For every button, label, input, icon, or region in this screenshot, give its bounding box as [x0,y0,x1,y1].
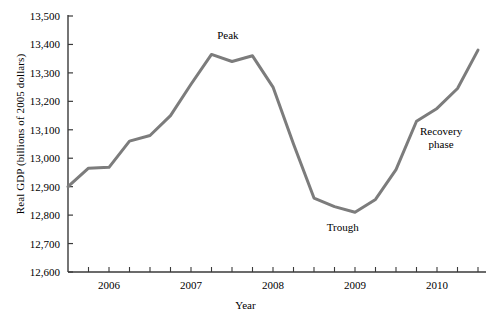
y-axis-ticks: 12,60012,70012,80012,90013,00013,10013,2… [30,10,73,278]
chart-axes [68,15,486,272]
annotation-peak: Peak [217,29,239,41]
svg-text:2007: 2007 [180,279,203,291]
gdp-line-chart: 12,60012,70012,80012,90013,00013,10013,2… [0,0,491,320]
annotation-phase: phase [429,138,454,150]
svg-text:2008: 2008 [262,279,285,291]
svg-text:13,300: 13,300 [30,67,61,79]
annotation-trough: Trough [327,221,359,233]
annotation-recovery: Recovery [420,125,463,137]
svg-text:2010: 2010 [426,279,449,291]
svg-text:2009: 2009 [344,279,367,291]
x-axis-ticks: 20062007200820092010 [89,267,479,291]
svg-text:13,500: 13,500 [30,10,61,22]
svg-text:13,000: 13,000 [30,152,61,164]
y-axis-title: Real GDP (billions of 2005 dollars) [14,10,26,258]
svg-text:13,400: 13,400 [30,38,61,50]
x-axis-title: Year [0,299,491,311]
svg-text:2006: 2006 [98,279,121,291]
svg-text:12,900: 12,900 [30,181,61,193]
svg-text:12,600: 12,600 [30,266,61,278]
svg-text:12,700: 12,700 [30,238,61,250]
chart-plot-area: 12,60012,70012,80012,90013,00013,10013,2… [0,0,491,320]
gdp-series-line [68,50,478,212]
svg-text:12,800: 12,800 [30,209,61,221]
svg-text:13,200: 13,200 [30,95,61,107]
svg-text:13,100: 13,100 [30,124,61,136]
